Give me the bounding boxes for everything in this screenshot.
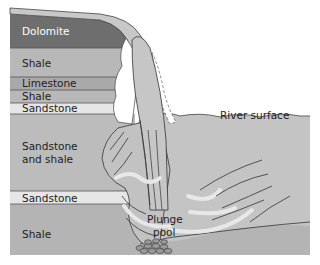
label-limestone: Limestone [22,77,77,89]
label-shale-3: Shale [22,228,51,240]
label-river-surface: River surface [220,109,289,121]
label-sandstone-and-shale-2: and shale [22,153,73,165]
label-plunge-pool-2: pool [153,226,175,238]
label-sandstone-1: Sandstone [22,102,78,114]
label-dolomite: Dolomite [22,25,70,37]
label-shale-2: Shale [22,90,51,102]
label-shale-1: Shale [22,57,51,69]
label-sandstone-and-shale-1: Sandstone [22,140,78,152]
label-sandstone-2: Sandstone [22,192,78,204]
label-plunge-pool-1: Plunge [147,213,183,225]
